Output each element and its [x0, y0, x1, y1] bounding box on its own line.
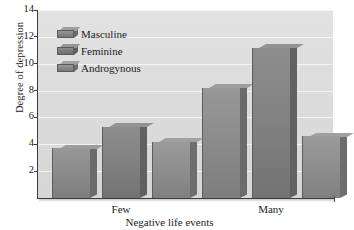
- legend-swatch-face: [57, 47, 74, 55]
- x-tick-label: Few: [112, 203, 131, 215]
- legend-swatch-icon: [57, 64, 74, 72]
- legend: MasculineFeminineAndrogynous: [57, 25, 141, 76]
- y-tick-label: 12: [24, 30, 35, 41]
- legend-item: Masculine: [57, 25, 141, 42]
- legend-item: Androgynous: [57, 59, 141, 76]
- y-tick-label: 8: [29, 84, 34, 95]
- y-tick-mark: [34, 10, 38, 11]
- y-tick-label: 4: [29, 137, 34, 148]
- legend-label: Feminine: [81, 45, 123, 57]
- y-tick-mark: [34, 90, 38, 91]
- y-tick-mark: [34, 63, 38, 64]
- legend-swatch-icon: [57, 47, 74, 55]
- legend-label: Masculine: [81, 28, 127, 40]
- legend-swatch-icon: [57, 30, 74, 38]
- legend-item: Feminine: [57, 42, 141, 59]
- y-tick-mark: [34, 144, 38, 145]
- x-axis-title: Negative life events: [0, 216, 339, 228]
- y-tick-label: 6: [29, 110, 34, 121]
- x-tick-label: Many: [258, 203, 284, 215]
- y-tick-mark: [34, 36, 38, 37]
- legend-label: Androgynous: [81, 62, 141, 74]
- legend-swatch-face: [57, 64, 74, 72]
- bar-side: [340, 133, 347, 198]
- y-tick-label: 2: [29, 164, 34, 175]
- y-tick-label: 10: [24, 57, 35, 68]
- legend-swatch-face: [57, 30, 74, 38]
- y-tick-mark: [34, 171, 38, 172]
- y-tick-label: 14: [24, 3, 35, 14]
- y-tick-mark: [34, 117, 38, 118]
